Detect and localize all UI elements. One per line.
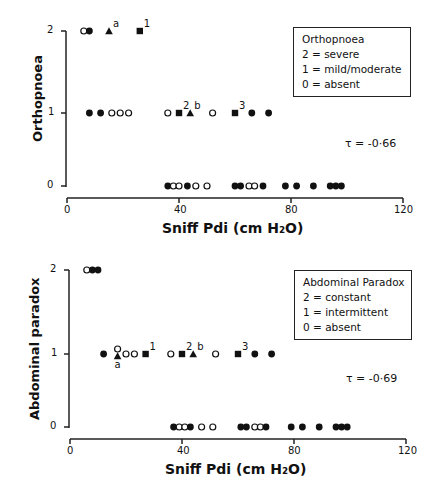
data-point: [316, 424, 323, 431]
y-tick-0: 0: [50, 420, 56, 431]
tau-annotation: τ = -0·69: [346, 372, 397, 385]
data-point: [288, 424, 295, 431]
data-point: [84, 267, 90, 273]
data-point: [213, 351, 219, 357]
data-point: [344, 424, 351, 431]
plot-area: a12b3: [0, 0, 429, 496]
point-label: 2: [186, 341, 192, 352]
x-axis-label: Sniff Pdi (cm H₂O): [165, 461, 306, 477]
point-label: 3: [242, 341, 248, 352]
data-point: 1: [142, 341, 156, 357]
legend-entry: 0 = absent: [303, 320, 403, 335]
point-label: a: [115, 359, 121, 370]
data-point: [263, 424, 270, 431]
point-label: 1: [150, 341, 156, 352]
data-point: a: [114, 352, 122, 370]
y-axis-label: Abdominal paradox: [27, 278, 42, 421]
data-point: 2: [179, 341, 193, 357]
data-point: 3: [235, 341, 249, 357]
data-point: [257, 424, 263, 430]
y-tick-1: 1: [51, 347, 57, 358]
legend: Abdominal Paradox 2 = constant 1 = inter…: [294, 270, 412, 340]
x-tick-80: 80: [288, 445, 301, 456]
legend-entry: 2 = constant: [303, 290, 403, 305]
data-point: [182, 424, 188, 430]
data-point: [100, 351, 107, 358]
abdominal-paradox-chart: a12b3 Abdominal paradox 2 1 0 0 40 80 12…: [0, 0, 429, 496]
point-label: b: [197, 341, 203, 352]
data-point: [299, 424, 306, 431]
data-point: [268, 351, 275, 358]
data-point: [243, 424, 250, 431]
x-tick-0: 0: [67, 445, 73, 456]
x-tick-120: 120: [398, 445, 417, 456]
data-point: [115, 346, 121, 352]
y-tick-2: 2: [50, 263, 56, 274]
data-point: [210, 424, 216, 430]
data-point: [187, 424, 194, 431]
data-point: [95, 267, 102, 274]
data-point: [168, 351, 174, 357]
data-point: [251, 351, 258, 358]
data-point: [131, 351, 137, 357]
x-tick-40: 40: [177, 445, 190, 456]
data-point: [123, 351, 129, 357]
legend-title: Abdominal Paradox: [303, 275, 403, 290]
legend-entry: 1 = intermittent: [303, 305, 403, 320]
data-point: [199, 424, 205, 430]
